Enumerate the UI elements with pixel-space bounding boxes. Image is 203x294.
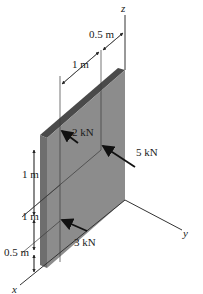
- z-axis-label: z: [120, 2, 126, 14]
- dim-vertical-upper-label: 1 m: [22, 168, 39, 180]
- plate-diagram: z x y 0.5 m 1 m 1 m 1: [0, 0, 203, 294]
- plate-side-face: [40, 135, 47, 268]
- dim-top-width-label: 1 m: [72, 58, 89, 70]
- y-axis-label: y: [182, 227, 188, 239]
- force-3kn-label: 3 kN: [74, 236, 96, 248]
- z-axis: z: [120, 2, 126, 70]
- dim-top-offset-label: 0.5 m: [89, 28, 115, 40]
- dim-vertical-middle-label: 1 m: [22, 210, 39, 222]
- force-5kn-label: 5 kN: [136, 146, 158, 158]
- x-axis-label: x: [11, 283, 17, 294]
- force-2kn-label: 2 kN: [72, 126, 94, 138]
- y-axis: y: [125, 200, 188, 239]
- dim-vertical-lower-label: 0.5 m: [4, 246, 30, 258]
